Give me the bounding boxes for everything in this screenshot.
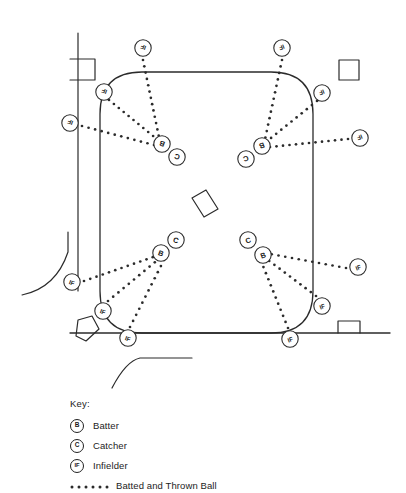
- field-outline: [100, 72, 313, 333]
- key-row-infielder: IF Infielder: [70, 456, 330, 475]
- backstop-arc-left: [22, 232, 68, 295]
- marker-b-top-right: B: [254, 138, 270, 154]
- key-label-batter: Batter: [93, 420, 119, 431]
- marker-c-top-right: C: [238, 151, 254, 167]
- marker-b-bottom-left: B: [153, 245, 169, 261]
- marker-c-bottom-right: C: [240, 232, 256, 248]
- key-row-catcher: C Catcher: [70, 436, 330, 455]
- marker-if-top-left-inner: IF: [96, 84, 112, 100]
- bench-rectangle-top-left: [70, 59, 95, 80]
- key-label-catcher: Catcher: [93, 440, 127, 451]
- marker-c-top-left: C: [169, 149, 185, 165]
- infielder-badge-icon: IF: [70, 459, 84, 473]
- center-mat-rectangle: [192, 190, 218, 217]
- marker-if-bottom-left-out: IF: [120, 330, 136, 346]
- marker-if-left-lower: IF: [64, 274, 80, 290]
- marker-if-top-left-outer: IF: [135, 40, 151, 56]
- key-row-ball-path: Batted and Thrown Ball: [70, 476, 330, 493]
- key-row-batter: B Batter: [70, 416, 330, 435]
- dotted-line-icon: [70, 479, 112, 493]
- key-label-infielder: Infielder: [93, 460, 128, 471]
- batter-badge-icon: B: [70, 419, 84, 433]
- marker-if-right-upper: IF: [352, 130, 368, 146]
- ball-path-group: [81, 59, 350, 330]
- marker-if-bottom-left-inn: IF: [95, 303, 111, 319]
- key-title: Key:: [70, 398, 330, 409]
- marker-if-left-upper: IF: [62, 115, 78, 131]
- marker-if-bottom-right-ot: IF: [282, 331, 298, 347]
- key-legend: Key: B Batter C Catcher IF Infielder Ba: [70, 398, 330, 493]
- marker-if-right-lower: IF: [350, 259, 366, 275]
- marker-if-bottom-right-in: IF: [314, 298, 330, 314]
- square-top-right: [339, 60, 359, 80]
- marker-b-bottom-right: B: [255, 247, 271, 263]
- marker-b-top-left: B: [154, 136, 170, 152]
- backstop-arc-bottom: [112, 358, 192, 388]
- key-label-ball-path: Batted and Thrown Ball: [116, 480, 217, 491]
- home-plate-pentagon: [76, 316, 99, 341]
- square-bottom-right: [338, 321, 360, 333]
- catcher-badge-icon: C: [70, 439, 84, 453]
- marker-if-top-right-outer: IF: [274, 40, 290, 56]
- marker-c-bottom-left: C: [168, 232, 184, 248]
- marker-if-top-right-inner: IF: [314, 85, 330, 101]
